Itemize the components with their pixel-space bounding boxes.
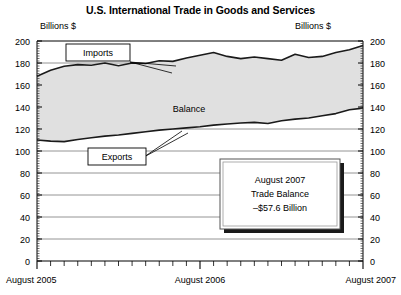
svg-text:140: 140 xyxy=(370,103,385,113)
svg-text:160: 160 xyxy=(15,81,30,91)
callout-line-3: –$57.6 Billion xyxy=(253,203,307,213)
svg-text:August 2007: August 2007 xyxy=(345,275,396,285)
chart-container: U.S. International Trade in Goods and Se… xyxy=(0,0,401,295)
callout-line-1: August 2007 xyxy=(255,175,306,185)
x-axis-ticks xyxy=(37,261,363,269)
svg-text:100: 100 xyxy=(370,147,385,157)
svg-text:140: 140 xyxy=(15,103,30,113)
svg-text:100: 100 xyxy=(15,147,30,157)
svg-text:0: 0 xyxy=(25,257,30,267)
svg-text:180: 180 xyxy=(370,59,385,69)
svg-text:80: 80 xyxy=(370,169,380,179)
balance-label: Balance xyxy=(173,104,206,114)
callout-line-2: Trade Balance xyxy=(251,189,309,199)
svg-text:80: 80 xyxy=(20,169,30,179)
svg-text:August 2006: August 2006 xyxy=(175,275,226,285)
x-axis-tick-labels: August 2005August 2006August 2007 xyxy=(6,275,396,285)
svg-text:40: 40 xyxy=(370,213,380,223)
svg-text:60: 60 xyxy=(20,191,30,201)
svg-text:60: 60 xyxy=(370,191,380,201)
trade-balance-callout: August 2007 Trade Balance –$57.6 Billion xyxy=(220,159,344,233)
svg-text:120: 120 xyxy=(370,125,385,135)
exports-label: Exports xyxy=(102,152,133,162)
svg-text:40: 40 xyxy=(20,213,30,223)
svg-text:August 2005: August 2005 xyxy=(6,275,57,285)
svg-text:200: 200 xyxy=(370,37,385,47)
chart-plot-area: 020406080100120140160180200 020406080100… xyxy=(0,0,401,295)
svg-text:120: 120 xyxy=(15,125,30,135)
imports-label: Imports xyxy=(83,48,114,58)
svg-text:180: 180 xyxy=(15,59,30,69)
svg-text:0: 0 xyxy=(370,257,375,267)
svg-text:20: 20 xyxy=(370,235,380,245)
svg-text:160: 160 xyxy=(370,81,385,91)
svg-text:200: 200 xyxy=(15,37,30,47)
svg-text:20: 20 xyxy=(20,235,30,245)
